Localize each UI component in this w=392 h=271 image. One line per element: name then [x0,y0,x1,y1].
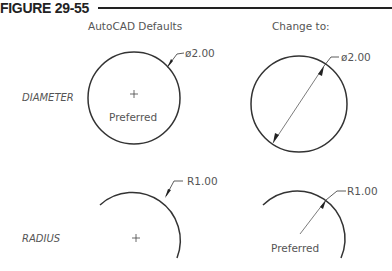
radius-change-value: R1.00 [347,185,378,197]
arrowhead-icon [167,59,173,68]
radius-change-note: Preferred [271,242,319,254]
diameter-default-value: ø2.00 [185,47,215,59]
arrowhead-icon [318,66,324,76]
diameter-default-note: Preferred [109,111,157,123]
radius-default-value: R1.00 [187,175,218,187]
dimension-drawing: ø2.00 Preferred ø2.00 R1.00 R1.00 Prefer… [0,0,392,271]
diameter-default-drawing: ø2.00 Preferred [88,47,215,144]
radius-default-drawing: R1.00 [100,175,218,258]
diameter-change-drawing: ø2.00 [251,51,371,152]
arrowhead-icon [273,133,279,143]
arrowhead-icon [165,189,171,198]
arrowhead-icon [320,200,326,209]
radius-change-drawing: R1.00 Preferred [263,185,378,258]
diameter-change-value: ø2.00 [341,51,371,63]
